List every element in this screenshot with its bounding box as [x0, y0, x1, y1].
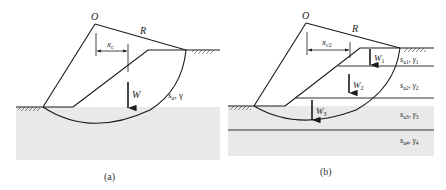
panel-b: O R xc2 W1 W2 W3 su1, γ1 su2, γ2 su3, γ3…: [228, 10, 434, 178]
ground-region: [16, 107, 220, 160]
weight-2-label: W2: [353, 80, 364, 91]
center-label: O: [302, 10, 309, 21]
hatch-right: [192, 50, 214, 54]
slope-stability-figure: O R xc W su, γ (a) O R xc2 W: [0, 0, 446, 190]
layer-2-label: su2, γ2: [400, 81, 419, 91]
caption-a: (a): [104, 171, 115, 183]
caption-b: (b): [320, 166, 332, 178]
hatch-right: [404, 48, 426, 52]
radius-left: [43, 24, 95, 107]
xc-label: xc: [106, 39, 114, 50]
center-label: O: [91, 11, 98, 22]
layer-1-label: su1, γ1: [400, 55, 419, 65]
radius-label: R: [351, 23, 358, 34]
radius-label: R: [139, 25, 146, 36]
weight-1-label: W1: [374, 53, 385, 64]
radius-left: [254, 23, 306, 106]
xc2-label: xc2: [321, 37, 332, 48]
hatch-left: [18, 107, 40, 111]
panel-a: O R xc W su, γ (a): [16, 11, 220, 183]
slope-face: [73, 50, 220, 107]
weight-label: W: [132, 89, 142, 100]
hatch-left: [229, 106, 251, 110]
soil-props-label: su, γ: [168, 90, 183, 101]
